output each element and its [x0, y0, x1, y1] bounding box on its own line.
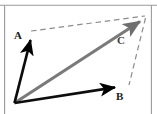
vector-diagram-canvas [0, 0, 157, 114]
vector-label-c: C [117, 35, 125, 46]
vector-diagram-figure: A B C [0, 0, 157, 114]
vector-label-b: B [116, 91, 123, 102]
vector-b-group [15, 87, 116, 103]
construction-lines-group [31, 16, 146, 85]
vector-label-a: A [14, 30, 22, 41]
vector-b-line [15, 87, 116, 103]
